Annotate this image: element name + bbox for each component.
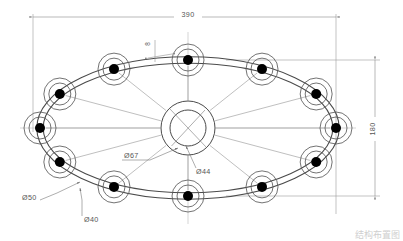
drawing-title-caption: 结构布置图 bbox=[355, 229, 400, 240]
node-wnw bbox=[44, 78, 76, 110]
spoke-line-5 bbox=[119, 73, 166, 111]
node-center-dot bbox=[183, 191, 193, 201]
spoke-line-6 bbox=[66, 96, 161, 121]
node-center-dot bbox=[109, 64, 119, 74]
node-center-dot bbox=[257, 64, 267, 74]
technical-drawing-canvas: 390 180 bbox=[0, 0, 403, 241]
dimension-label-hub-outer: Ø67 bbox=[124, 151, 139, 160]
node-center-dot bbox=[183, 55, 193, 65]
node-center-dot bbox=[311, 89, 321, 99]
central-hub bbox=[161, 101, 215, 155]
node-center-dot bbox=[257, 182, 267, 192]
leader-line-node-inner bbox=[80, 188, 82, 200]
node-nnw bbox=[98, 53, 130, 85]
spoke-line-8 bbox=[66, 135, 161, 160]
node-ese bbox=[300, 146, 332, 178]
node-center-dot bbox=[55, 89, 65, 99]
cad-drawing-svg: 390 180 bbox=[0, 0, 403, 241]
node-n bbox=[172, 44, 204, 76]
dimension-label-track-width: 8 bbox=[144, 42, 151, 46]
spoke-line-11 bbox=[210, 145, 257, 183]
node-w bbox=[24, 112, 56, 144]
leader-line-node-outer bbox=[57, 182, 80, 193]
node-center-dot bbox=[55, 157, 65, 167]
dimension-label-node-outer: Ø50 bbox=[22, 193, 37, 202]
node-center-dot bbox=[109, 182, 119, 192]
leader-line-hub-outer bbox=[150, 148, 178, 160]
dimension-label-overall-width: 390 bbox=[182, 10, 195, 19]
node-e bbox=[320, 112, 352, 144]
node-center-dot bbox=[311, 157, 321, 167]
node-nne bbox=[246, 53, 278, 85]
node-center-dot bbox=[331, 123, 341, 133]
node-ssw bbox=[98, 171, 130, 203]
spoke-line-2 bbox=[215, 96, 310, 121]
node-wsw bbox=[44, 146, 76, 178]
leader-shelf-node-outer bbox=[40, 193, 57, 200]
dimension-label-node-inner: Ø40 bbox=[84, 215, 99, 224]
node-ene bbox=[300, 78, 332, 110]
dimension-label-overall-height: 180 bbox=[368, 123, 377, 136]
node-s bbox=[172, 180, 204, 212]
node-sse bbox=[246, 171, 278, 203]
node-center-dot bbox=[35, 123, 45, 133]
spoke-line-12 bbox=[215, 135, 310, 160]
dimension-label-hub-inner: Ø44 bbox=[196, 167, 211, 176]
spoke-line-3 bbox=[210, 73, 257, 111]
